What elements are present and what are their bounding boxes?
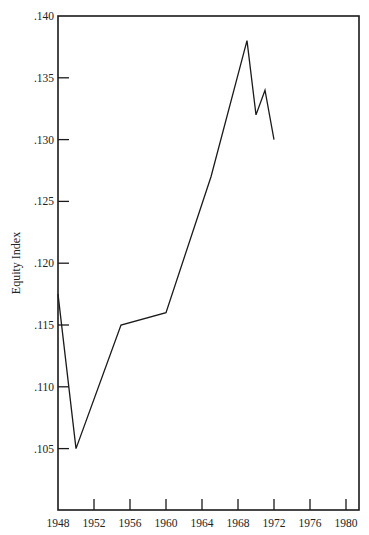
y-tick-label: .135 [34, 72, 54, 84]
x-tick-label: 1948 [47, 517, 70, 529]
x-tick-label: 1980 [335, 517, 358, 529]
y-axis-title: Equity Index [9, 232, 23, 294]
x-tick-label: 1972 [263, 517, 286, 529]
plot-frame [58, 16, 359, 510]
y-tick-label: .120 [34, 257, 54, 269]
equity-index-line [58, 41, 274, 449]
y-tick-label: .130 [34, 134, 54, 146]
x-tick-label: 1952 [83, 517, 106, 529]
equity-index-chart: .105.110.115.120.125.130.135.140 1948195… [0, 0, 369, 535]
y-axis-ticks: .105.110.115.120.125.130.135.140 [34, 10, 69, 455]
y-tick-label: .140 [34, 10, 54, 22]
y-tick-label: .115 [34, 319, 54, 331]
y-tick-label: .105 [34, 443, 54, 455]
y-tick-label: .125 [34, 195, 54, 207]
y-tick-label: .110 [34, 381, 54, 393]
x-tick-label: 1960 [155, 517, 178, 529]
x-axis-ticks: 194819521956196019641968197219761980 [47, 499, 358, 529]
x-tick-label: 1956 [119, 517, 142, 529]
x-tick-label: 1964 [191, 517, 214, 529]
x-tick-label: 1968 [227, 517, 250, 529]
x-tick-label: 1976 [299, 517, 322, 529]
